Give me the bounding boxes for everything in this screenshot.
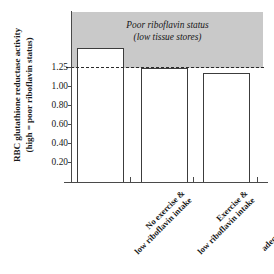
x-tick-mark-3 bbox=[257, 177, 258, 183]
y-tick-mark-1-00 bbox=[68, 86, 72, 87]
y-axis-ticks: 1.25 1.00 0.80 0.60 0.40 0.20 bbox=[40, 0, 68, 190]
x-axis-label-exercise-low-riboflavin: Exercise & low riboflavin intake bbox=[188, 188, 257, 257]
y-tick-label-1-25: 1.25 bbox=[40, 62, 68, 72]
y-tick-mark-0-80 bbox=[68, 105, 72, 106]
threshold-line-1-25 bbox=[66, 67, 264, 68]
x-tick-mark-1 bbox=[130, 177, 131, 183]
bar-exercise-low-riboflavin bbox=[141, 68, 188, 183]
poor-status-annotation: Poor riboflavin status (low tissue store… bbox=[72, 20, 263, 43]
y-tick-mark-0-40 bbox=[68, 143, 72, 144]
y-axis-title-line-1: RBC glutathione reductase activity bbox=[12, 28, 24, 162]
y-tick-mark-1-25 bbox=[68, 67, 72, 68]
x-tick-mark-2 bbox=[193, 177, 194, 183]
y-tick-label-0-80: 0.80 bbox=[40, 100, 68, 110]
y-tick-label-0-40: 0.40 bbox=[40, 138, 68, 148]
y-axis-title-line-2: (high = poor riboflavin status) bbox=[23, 28, 35, 162]
y-axis-line bbox=[71, 11, 72, 183]
y-tick-mark-0-60 bbox=[68, 124, 72, 125]
poor-status-annotation-line-1: Poor riboflavin status bbox=[72, 20, 263, 32]
bar-exercise-adequate-riboflavin bbox=[203, 73, 250, 183]
y-tick-mark-0-20 bbox=[68, 162, 72, 163]
x-axis-label-exercise-adequate-riboflavin: Exercise & adequate riboflavin intake bbox=[252, 188, 274, 261]
y-tick-label-0-20: 0.20 bbox=[40, 157, 68, 167]
x-axis-line bbox=[64, 182, 268, 183]
riboflavin-status-bar-chart: RBC glutathione reductase activity (high… bbox=[0, 0, 274, 274]
poor-status-annotation-line-2: (low tissue stores) bbox=[72, 32, 263, 44]
x-axis-label-no-exercise-low-riboflavin: No exercise & low riboflavin intake bbox=[125, 188, 194, 257]
y-axis-title-text: RBC glutathione reductase activity (high… bbox=[12, 28, 35, 162]
bar-no-exercise-low-riboflavin bbox=[77, 48, 124, 183]
y-tick-label-0-60: 0.60 bbox=[40, 119, 68, 129]
x-tick-mark-0 bbox=[71, 177, 72, 183]
y-tick-label-1-00: 1.00 bbox=[40, 81, 68, 91]
